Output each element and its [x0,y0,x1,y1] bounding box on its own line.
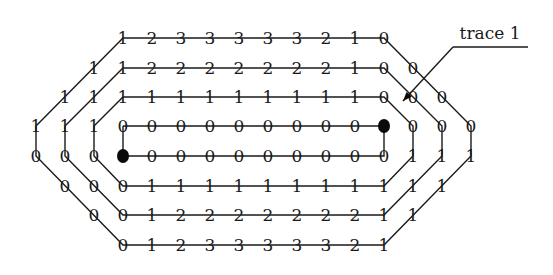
trace-label: trace 1 [460,23,521,43]
grid-cell: 0 [176,116,187,136]
grid-cell: 0 [205,146,216,166]
grid-cell: 1 [60,87,71,107]
grid-cell: 2 [321,58,332,78]
grid-cell: 3 [263,28,274,48]
trace-callout: trace 1 [403,23,528,101]
grid-cell: 1 [176,176,187,196]
grid-cell: 2 [292,58,303,78]
grid-cell: 0 [350,146,361,166]
grid-cell: 1 [60,116,71,136]
grid-cell: 1 [408,205,419,225]
grid-cell: 1 [147,176,158,196]
grid-cell: 0 [60,146,71,166]
grid-cell: 0 [379,28,390,48]
trace-ring-2 [94,97,413,186]
grid-cell: 1 [350,58,361,78]
grid-cell: 0 [176,146,187,166]
grid-cell: 1 [350,28,361,48]
grid-cell: 3 [292,28,303,48]
grid-cell: 1 [118,87,129,107]
grid-cell: 0 [321,146,332,166]
grid-cell: 1 [292,87,303,107]
grid-cell: 0 [437,116,448,136]
grid-cell: 2 [147,58,158,78]
grid-cell: 0 [205,116,216,136]
grid-cell: 0 [118,235,129,255]
grid-cell: 0 [379,146,390,166]
grid-cell: 1 [118,28,129,48]
grid-cell: 1 [263,176,274,196]
trace-ring-4 [36,38,471,245]
grid-cell: 0 [292,116,303,136]
grid-cell: 1 [350,87,361,107]
grid-cell: 1 [147,87,158,107]
grid-cell: 1 [263,87,274,107]
grid-cell: 3 [263,235,274,255]
grid-cell: 3 [205,28,216,48]
grid-cell: 2 [263,58,274,78]
grid-cell: 2 [234,58,245,78]
terminal-top-right-dot-icon [378,119,390,133]
grid-cell: 1 [205,176,216,196]
terminal-bottom-left-dot-icon [117,149,129,163]
grid-cell: 2 [321,28,332,48]
grid-cell: 0 [89,176,100,196]
grid-cell: 1 [321,176,332,196]
grid-cell: 1 [89,116,100,136]
grid-cell: 2 [205,205,216,225]
grid-cell: 0 [437,87,448,107]
grid-cell: 1 [437,176,448,196]
grid-cell: 1 [408,146,419,166]
grid-cell: 0 [408,58,419,78]
trace-wires [36,38,471,245]
grid-cell: 3 [321,235,332,255]
grid-cell: 0 [408,116,419,136]
grid-cell: 1 [31,116,42,136]
grid-cell: 0 [234,146,245,166]
grid-cell: 2 [205,58,216,78]
grid-cell: 1 [147,235,158,255]
grid-cell: 2 [321,205,332,225]
grid-cell: 0 [60,176,71,196]
grid-cell: 0 [89,146,100,166]
grid-cell: 0 [263,146,274,166]
grid-cell: 0 [118,116,129,136]
grid-cell: 0 [466,116,477,136]
grid-cell: 1 [147,205,158,225]
grid-cell: 1 [176,87,187,107]
grid-cell: 0 [89,205,100,225]
grid-cell: 3 [234,28,245,48]
grid-cell: 1 [234,87,245,107]
grid-cell: 3 [176,28,187,48]
grid-cell: 0 [118,205,129,225]
grid-cell: 1 [379,176,390,196]
grid-cell: 0 [147,116,158,136]
grid-cell: 1 [234,176,245,196]
grid-cell: 2 [176,205,187,225]
grid-cell: 0 [350,116,361,136]
grid-cell: 1 [321,87,332,107]
grid-cell: 1 [379,235,390,255]
grid-cell: 1 [466,146,477,166]
grid-cell: 0 [147,146,158,166]
grid-cell: 0 [321,116,332,136]
grid-cell: 0 [379,87,390,107]
grid-cell: 1 [118,58,129,78]
grid-cell: 3 [205,235,216,255]
grid-cell: 0 [31,146,42,166]
grid-cell: 0 [263,116,274,136]
grid-cell: 0 [379,58,390,78]
grid-cells: 1233333210112222222100111111111110001110… [31,28,477,255]
trace-ring-1 [123,126,384,156]
grid-cell: 2 [147,28,158,48]
grid-cell: 1 [437,146,448,166]
grid-cell: 0 [118,176,129,196]
grid-cell: 3 [292,235,303,255]
routing-grid-diagram: 1233333210112222222100111111111110001110… [0,0,553,275]
grid-cell: 1 [408,176,419,196]
grid-cell: 2 [176,58,187,78]
grid-cell: 1 [292,176,303,196]
grid-cell: 2 [263,205,274,225]
grid-cell: 0 [234,116,245,136]
grid-cell: 1 [350,176,361,196]
